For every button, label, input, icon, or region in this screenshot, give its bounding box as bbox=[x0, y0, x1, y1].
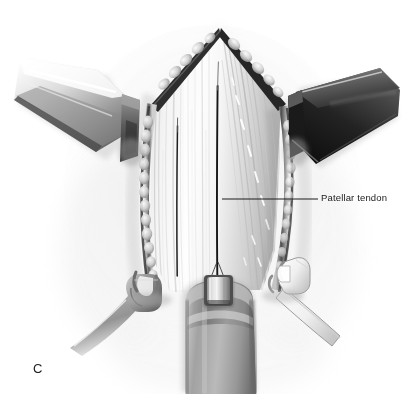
hook-right-prong-notch bbox=[277, 266, 290, 282]
surgical-staple bbox=[203, 275, 234, 308]
incision-line-left bbox=[177, 126, 178, 276]
surgical-illustration-figure: Patellar tendon C bbox=[0, 0, 409, 394]
incision-line-right bbox=[217, 86, 218, 284]
illustration-canvas bbox=[0, 0, 409, 394]
bone-lower-body bbox=[186, 324, 256, 394]
